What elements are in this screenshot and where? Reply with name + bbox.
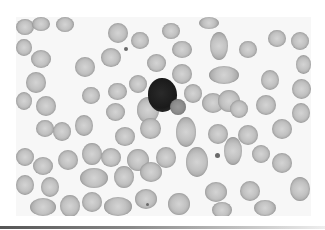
red-blood-cell [186, 147, 208, 177]
red-blood-cell [80, 168, 108, 188]
red-blood-cell [106, 103, 125, 121]
red-blood-cell [176, 117, 196, 147]
red-blood-cell [31, 50, 51, 68]
red-blood-cell [129, 75, 147, 93]
platelet [124, 47, 128, 51]
red-blood-cell [238, 125, 258, 145]
red-blood-cell [36, 96, 56, 116]
red-blood-cell [16, 148, 34, 166]
red-blood-cell [272, 119, 292, 139]
platelet [146, 203, 149, 206]
red-blood-cell [32, 17, 50, 31]
red-blood-cell [82, 87, 100, 104]
red-blood-cell [172, 41, 192, 58]
red-blood-cell [60, 195, 80, 216]
red-blood-cell [135, 189, 157, 209]
red-blood-cell [184, 84, 202, 103]
red-blood-cell [41, 177, 59, 197]
red-blood-cell [16, 92, 32, 110]
red-blood-cell [140, 162, 162, 182]
red-blood-cell [114, 166, 134, 188]
red-blood-cell [75, 57, 95, 77]
red-blood-cell [36, 120, 54, 137]
red-blood-cell [101, 148, 121, 167]
red-blood-cell [58, 150, 78, 170]
red-blood-cell [272, 153, 292, 173]
red-blood-cell [101, 48, 121, 67]
red-blood-cell [75, 115, 93, 136]
red-blood-cell [147, 54, 166, 72]
red-blood-cell [240, 181, 260, 201]
red-blood-cell [254, 200, 276, 216]
red-blood-cell [252, 145, 270, 163]
red-blood-cell [170, 99, 186, 115]
micrograph [16, 17, 311, 216]
red-blood-cell [205, 182, 227, 202]
red-blood-cell [209, 66, 239, 84]
red-blood-cell [53, 122, 71, 141]
red-blood-cell [292, 103, 310, 123]
red-blood-cell [115, 127, 135, 146]
red-blood-cell [239, 41, 257, 58]
red-blood-cell [82, 143, 102, 165]
red-blood-cell [230, 100, 248, 118]
red-blood-cell [256, 95, 276, 115]
red-blood-cell [108, 83, 127, 100]
red-blood-cell [290, 177, 310, 201]
red-blood-cell [224, 137, 242, 165]
red-blood-cell [168, 193, 190, 215]
red-blood-cell [162, 23, 180, 39]
red-blood-cell [16, 175, 34, 195]
bottom-rule [0, 226, 325, 229]
red-blood-cell [56, 17, 74, 32]
red-blood-cell [208, 124, 228, 144]
red-blood-cell [261, 70, 279, 90]
red-blood-cell [131, 32, 149, 49]
red-blood-cell [199, 17, 219, 29]
red-blood-cell [16, 39, 32, 56]
red-blood-cell [108, 23, 128, 43]
red-blood-cell [296, 55, 311, 74]
red-blood-cell [140, 118, 161, 139]
red-blood-cell [268, 30, 286, 47]
red-blood-cell [292, 79, 311, 99]
red-blood-cell [26, 72, 46, 93]
red-blood-cell [210, 32, 228, 60]
red-blood-cell [104, 197, 132, 216]
red-blood-cell [30, 198, 56, 216]
red-blood-cell [33, 157, 53, 175]
red-blood-cell [172, 64, 192, 84]
platelet [215, 153, 220, 158]
red-blood-cell [82, 192, 102, 212]
red-blood-cell [212, 202, 232, 216]
red-blood-cell [291, 32, 309, 50]
